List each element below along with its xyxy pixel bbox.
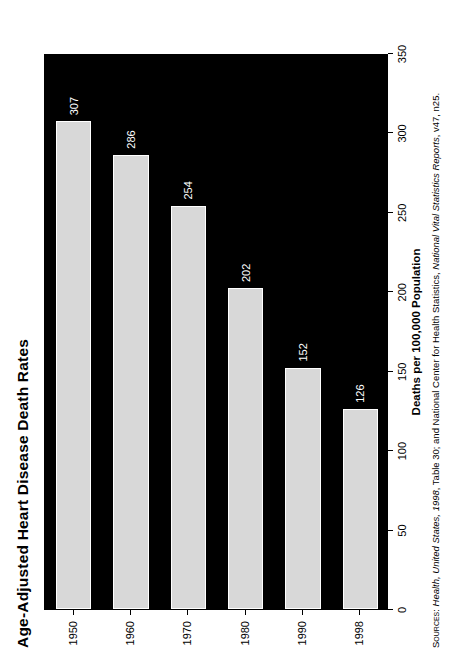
value-axis-tick-label: 100 <box>396 442 408 460</box>
value-axis-tick <box>388 609 393 610</box>
value-axis-tick-label: 0 <box>396 607 408 613</box>
category-axis-tick <box>187 610 188 615</box>
source-title-2: National Vital Statistics Reports <box>430 137 441 269</box>
chart-figure: Age-Adjusted Heart Disease Death Rates 3… <box>0 0 454 664</box>
source-title-1: Health, United States, 1998 <box>430 490 441 606</box>
value-axis-tick-label: 350 <box>396 45 408 63</box>
value-axis-title: Deaths per 100,000 Population <box>410 54 422 610</box>
value-axis-tick <box>388 212 393 213</box>
bar-row: 254 <box>171 55 207 609</box>
value-axis-tick <box>388 132 393 133</box>
chart-title: Age-Adjusted Heart Disease Death Rates <box>14 339 32 648</box>
bar <box>228 288 264 609</box>
bar <box>285 368 321 609</box>
value-axis-tick <box>388 530 393 531</box>
bar-row: 126 <box>343 55 379 609</box>
bar-value-label: 307 <box>68 97 79 115</box>
value-axis-tick <box>388 371 393 372</box>
bar-value-label: 202 <box>240 264 251 282</box>
bar <box>343 409 379 609</box>
source-note: Sources: Health, United States, 1998, Ta… <box>430 93 441 648</box>
category-axis-tick-label: 1998 <box>353 621 365 645</box>
category-axis-tick <box>245 610 246 615</box>
category-axis: 195019601970198019901998 <box>44 609 388 610</box>
bar-value-label: 152 <box>297 343 308 361</box>
bar-value-label: 286 <box>125 130 136 148</box>
category-axis-tick-label: 1960 <box>124 621 136 645</box>
bar-row: 307 <box>56 55 92 609</box>
bar <box>113 155 149 609</box>
value-axis-tick-label: 250 <box>396 204 408 222</box>
bar <box>56 121 92 609</box>
source-middle: , Table 30; and National Center for Heal… <box>430 270 441 491</box>
bar-row: 152 <box>285 55 321 609</box>
value-axis-tick-label: 200 <box>396 283 408 301</box>
value-axis: 050100150200250300350 <box>388 54 389 610</box>
category-axis-tick <box>73 610 74 615</box>
value-axis-tick <box>388 53 393 54</box>
plot-area: 307286254202152126 <box>44 54 388 610</box>
value-axis-tick <box>388 450 393 451</box>
bar-series: 307286254202152126 <box>45 55 387 609</box>
bar-value-label: 254 <box>183 181 194 199</box>
category-axis-tick <box>302 610 303 615</box>
category-axis-tick-label: 1970 <box>181 621 193 645</box>
category-axis-tick <box>130 610 131 615</box>
bar <box>171 206 207 609</box>
value-axis-tick-label: 150 <box>396 363 408 381</box>
category-axis-tick-label: 1980 <box>239 621 251 645</box>
value-axis-tick <box>388 291 393 292</box>
value-axis-tick-label: 50 <box>396 524 408 536</box>
category-axis-tick-label: 1950 <box>67 621 79 645</box>
bar-value-label: 126 <box>355 384 366 402</box>
category-axis-tick <box>359 610 360 615</box>
bar-row: 286 <box>113 55 149 609</box>
source-prefix: Sources: <box>430 609 441 648</box>
source-suffix: , v47, n25. <box>430 93 441 137</box>
bar-row: 202 <box>228 55 264 609</box>
value-axis-tick-label: 300 <box>396 124 408 142</box>
category-axis-tick-label: 1990 <box>296 621 308 645</box>
